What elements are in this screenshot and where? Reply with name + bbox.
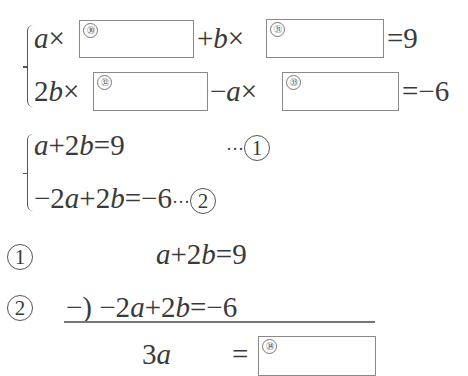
- system1-eq2-rhs: =−6: [402, 77, 449, 106]
- dots: ···: [172, 192, 190, 212]
- times-sign: ×: [63, 75, 79, 107]
- subtract-operator: −): [66, 291, 92, 323]
- result-eq: =: [232, 340, 248, 369]
- system1-eq2-left: 2b×: [34, 77, 79, 106]
- box-number-30: ㉚: [83, 23, 98, 38]
- sub-row2-label: 2: [7, 291, 33, 321]
- var-a: a: [156, 238, 171, 270]
- rhs: =9: [216, 238, 247, 270]
- rhs: =9: [94, 129, 125, 161]
- var-b: b: [79, 129, 94, 161]
- times-sign: ×: [49, 22, 65, 54]
- times-sign: ×: [228, 22, 244, 54]
- system2-eq2: −2a+2b=−6···2: [34, 184, 216, 214]
- system1-eq2-mid: −a×: [210, 77, 257, 106]
- system1-eq1-mid: +b×: [197, 24, 244, 53]
- var-a: a: [65, 182, 80, 214]
- var-a: a: [226, 75, 241, 107]
- box-number-31: ㉛: [270, 22, 285, 37]
- circled-2-icon: 2: [190, 188, 216, 214]
- brace-system-2: [27, 134, 34, 211]
- neg-2: −2: [99, 291, 130, 323]
- plus-sign: +: [197, 22, 213, 54]
- subtraction-rule: [64, 321, 375, 323]
- coef-3: 3: [142, 338, 157, 370]
- result-lhs: 3a: [142, 340, 171, 369]
- var-b: b: [175, 291, 190, 323]
- box-number-34: ㉞: [262, 339, 277, 354]
- coef-2: 2: [34, 75, 49, 107]
- minus-sign: −: [210, 75, 226, 107]
- plus-2: +2: [49, 129, 80, 161]
- system2-eq1-ref: ···1: [226, 131, 270, 161]
- plus-2: +2: [145, 291, 176, 323]
- var-b: b: [110, 182, 125, 214]
- system1-eq1-left: a×: [34, 24, 65, 53]
- times-sign: ×: [241, 75, 257, 107]
- answer-box-34[interactable]: ㉞: [258, 336, 376, 376]
- box-number-32: ㉜: [97, 75, 112, 90]
- circled-2-icon: 2: [7, 295, 33, 321]
- answer-box-33[interactable]: ㉝: [282, 72, 399, 111]
- sub-row1-label: 1: [7, 240, 33, 270]
- plus-2: +2: [79, 182, 110, 214]
- brace-system-1: [27, 25, 34, 107]
- plus-2: +2: [171, 238, 202, 270]
- rhs: =−6: [125, 182, 172, 214]
- var-b: b: [49, 75, 64, 107]
- circled-1-icon: 1: [244, 135, 270, 161]
- sub-row2-eq: −) −2a+2b=−6: [66, 293, 237, 322]
- dots: ···: [226, 139, 244, 159]
- system2-eq1: a+2b=9: [34, 131, 125, 160]
- neg-2: −2: [34, 182, 65, 214]
- var-b: b: [213, 22, 228, 54]
- var-b: b: [201, 238, 216, 270]
- circled-1-icon: 1: [7, 244, 33, 270]
- answer-box-30[interactable]: ㉚: [79, 20, 194, 58]
- system1-eq1-rhs: =9: [387, 24, 418, 53]
- sub-row1-eq: a+2b=9: [156, 240, 247, 269]
- var-a: a: [34, 129, 49, 161]
- var-a: a: [130, 291, 145, 323]
- var-a: a: [34, 22, 49, 54]
- answer-box-31[interactable]: ㉛: [266, 19, 384, 58]
- box-number-33: ㉝: [286, 75, 301, 90]
- var-a: a: [157, 338, 172, 370]
- answer-box-32[interactable]: ㉜: [93, 72, 208, 111]
- rhs: =−6: [190, 291, 237, 323]
